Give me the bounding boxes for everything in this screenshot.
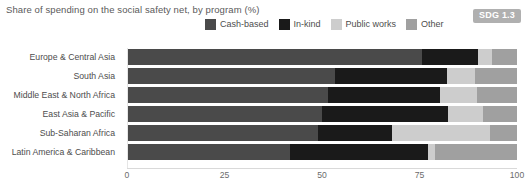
stacked-bar (127, 106, 517, 122)
bar-row: Sub-Saharan Africa (0, 124, 530, 142)
chart-container: Share of spending on the social safety n… (0, 0, 530, 191)
stacked-bar (127, 144, 517, 160)
bar-segment[interactable] (477, 87, 517, 103)
legend-item[interactable]: In-kind (279, 19, 321, 30)
bar-segment[interactable] (127, 144, 290, 160)
bar-segment[interactable] (290, 144, 428, 160)
bar-rows: Europe & Central AsiaSouth AsiaMiddle Ea… (0, 48, 530, 163)
bar-segment[interactable] (335, 68, 447, 84)
stacked-bar (127, 49, 517, 65)
x-axis-line (127, 168, 517, 169)
bar-segment[interactable] (127, 106, 322, 122)
legend-item[interactable]: Other (406, 19, 444, 30)
legend-swatch-icon (406, 19, 417, 30)
bar-segment[interactable] (478, 49, 492, 65)
bar-segment[interactable] (490, 125, 517, 141)
legend-swatch-icon (279, 19, 290, 30)
category-label: Middle East & North Africa (0, 86, 120, 104)
category-label: Europe & Central Asia (0, 48, 120, 66)
x-tick-label: 75 (415, 170, 425, 180)
bar-segment[interactable] (318, 125, 392, 141)
bar-segment[interactable] (127, 125, 318, 141)
legend-item[interactable]: Public works (331, 19, 397, 30)
bar-segment[interactable] (392, 125, 490, 141)
bar-segment[interactable] (428, 144, 435, 160)
bar-row: South Asia (0, 67, 530, 85)
bar-segment[interactable] (448, 106, 483, 122)
x-tick-label: 25 (220, 170, 230, 180)
sdg-badge: SDG 1.3 (473, 9, 521, 23)
bar-row: East Asia & Pacific (0, 105, 530, 123)
bar-row: Europe & Central Asia (0, 48, 530, 66)
x-tick-label: 100 (510, 170, 524, 180)
stacked-bar (127, 68, 517, 84)
legend-label: In-kind (294, 20, 321, 29)
bar-segment[interactable] (475, 68, 517, 84)
category-label: South Asia (0, 67, 120, 85)
bar-segment[interactable] (435, 144, 517, 160)
x-axis-ticks: 0255075100 (0, 170, 530, 188)
legend-swatch-icon (205, 19, 216, 30)
legend-item[interactable]: Cash-based (205, 19, 269, 30)
bar-segment[interactable] (422, 49, 478, 65)
y-axis-line (127, 48, 128, 168)
chart-title: Share of spending on the social safety n… (6, 4, 259, 15)
category-label: East Asia & Pacific (0, 105, 120, 123)
plot-area: Europe & Central AsiaSouth AsiaMiddle Ea… (0, 48, 530, 168)
legend-label: Public works (346, 20, 397, 29)
bar-segment[interactable] (322, 106, 448, 122)
category-label: Latin America & Caribbean (0, 143, 120, 161)
bar-row: Middle East & North Africa (0, 86, 530, 104)
bar-segment[interactable] (483, 106, 517, 122)
x-tick-label: 50 (317, 170, 327, 180)
bar-segment[interactable] (328, 87, 440, 103)
bar-segment[interactable] (127, 87, 328, 103)
bar-segment[interactable] (127, 49, 422, 65)
bar-segment[interactable] (492, 49, 517, 65)
bar-segment[interactable] (127, 68, 335, 84)
category-label: Sub-Saharan Africa (0, 124, 120, 142)
legend-label: Cash-based (220, 20, 269, 29)
bar-segment[interactable] (447, 68, 475, 84)
stacked-bar (127, 125, 517, 141)
legend-swatch-icon (331, 19, 342, 30)
x-tick-label: 0 (125, 170, 130, 180)
bar-row: Latin America & Caribbean (0, 143, 530, 161)
legend-label: Other (421, 20, 444, 29)
stacked-bar (127, 87, 517, 103)
chart-legend: Cash-basedIn-kindPublic worksOther (205, 19, 444, 30)
bar-segment[interactable] (440, 87, 477, 103)
